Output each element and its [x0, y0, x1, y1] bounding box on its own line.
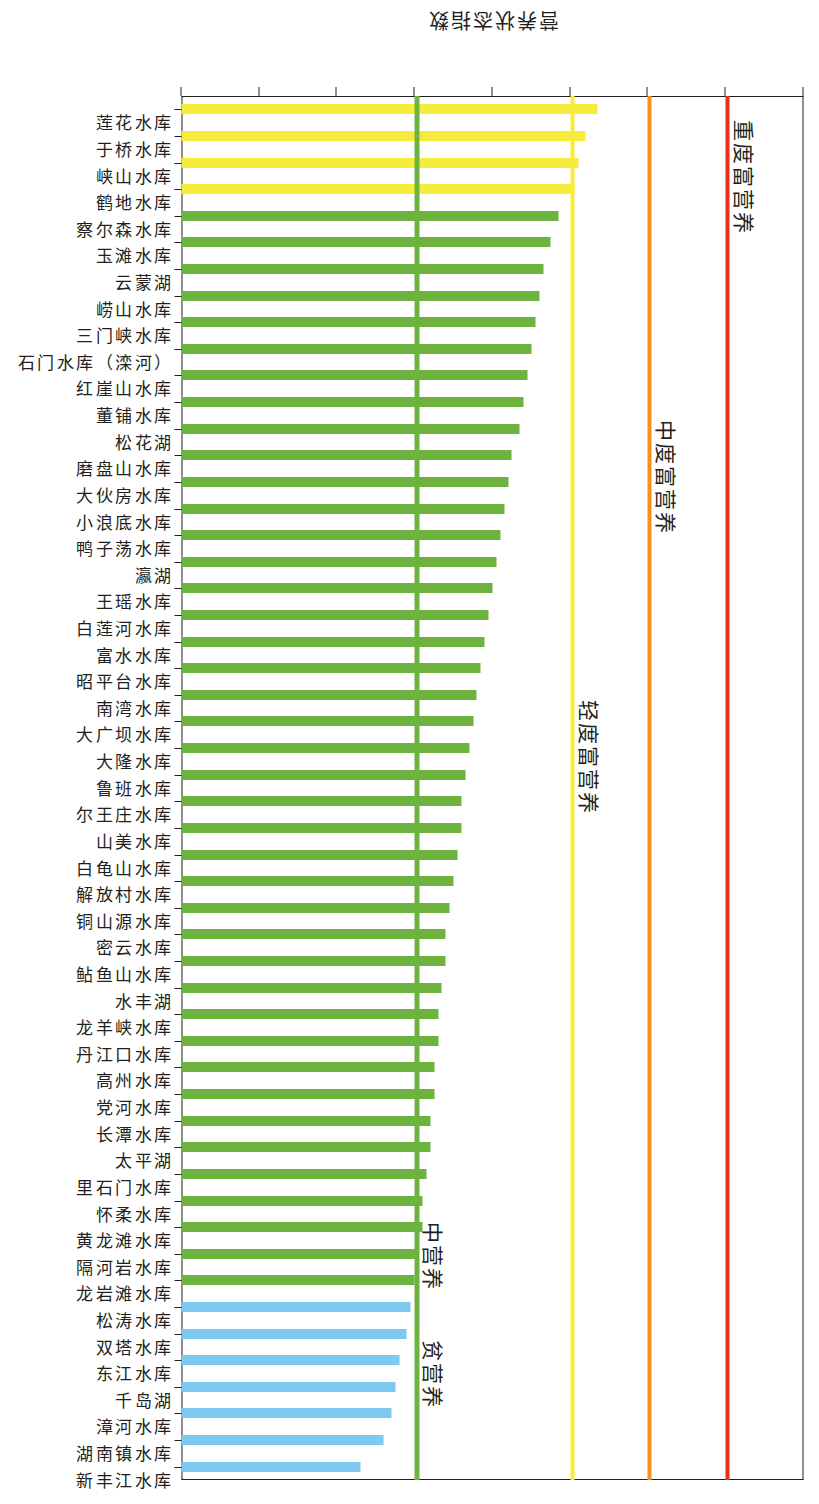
category-axis-tick: [174, 801, 181, 802]
category-axis-tick: [174, 482, 181, 483]
trophic-state-annotation: 重度富营养: [729, 120, 759, 235]
tick-mark: [647, 87, 648, 96]
category-label: 解放村水库: [13, 887, 173, 905]
category-axis-tick: [174, 588, 181, 589]
category-label: 红崖山水库: [13, 381, 173, 399]
category-axis-tick: [174, 1360, 181, 1361]
reference-line: [648, 96, 652, 1480]
category-axis-tick: [174, 1280, 181, 1281]
category-axis-tick: [174, 748, 181, 749]
category-axis-tick: [174, 136, 181, 137]
category-axis-tick: [174, 695, 181, 696]
category-label: 里石门水库: [13, 1180, 173, 1198]
tick-mark: [413, 87, 414, 96]
tick-mark: [802, 87, 803, 96]
category-axis-tick: [174, 455, 181, 456]
category-label: 鲁班水库: [13, 781, 173, 799]
category-label: 董铺水库: [13, 408, 173, 426]
category-label: 小浪底水库: [13, 515, 173, 533]
category-axis-tick: [174, 1147, 181, 1148]
category-label: 昭平台水库: [13, 674, 173, 692]
category-label: 鸭子荡水库: [13, 541, 173, 559]
category-label: 东江水库: [13, 1366, 173, 1384]
category-label: 怀柔水库: [13, 1207, 173, 1225]
category-axis-tick: [174, 1307, 181, 1308]
category-label: 鲇鱼山水库: [13, 967, 173, 985]
category-axis-tick: [174, 429, 181, 430]
category-axis-tick: [174, 1254, 181, 1255]
category-label: 云蒙湖: [13, 275, 173, 293]
category-label: 大广坝水库: [13, 727, 173, 745]
trophic-state-annotation: 轻度富营养: [574, 700, 604, 815]
category-label: 大伙房水库: [13, 488, 173, 506]
category-axis-tick: [174, 1094, 181, 1095]
category-label: 白龟山水库: [13, 861, 173, 879]
category-label: 密云水库: [13, 940, 173, 958]
category-label: 党河水库: [13, 1100, 173, 1118]
category-axis-tick: [174, 881, 181, 882]
tick-mark: [491, 87, 492, 96]
tick-mark: [724, 87, 725, 96]
category-label: 瀛湖: [13, 568, 173, 586]
category-axis-tick: [174, 1201, 181, 1202]
category-axis-tick: [174, 934, 181, 935]
category-axis-tick: [174, 775, 181, 776]
category-axis-tick: [174, 322, 181, 323]
category-label: 丹江口水库: [13, 1047, 173, 1065]
category-axis-tick: [174, 1121, 181, 1122]
category-axis-tick: [174, 509, 181, 510]
chart-figure: 01020304050607080 营养状态指数 莲花水库于桥水库峡山水库鹤地水…: [0, 0, 819, 1504]
category-label: 龙羊峡水库: [13, 1020, 173, 1038]
category-axis-tick: [174, 296, 181, 297]
category-axis-tick: [174, 961, 181, 962]
category-axis-tick: [174, 109, 181, 110]
category-axis-tick: [174, 1413, 181, 1414]
category-label: 尔王庄水库: [13, 807, 173, 825]
category-axis-tick: [174, 269, 181, 270]
category-label: 大隆水库: [13, 754, 173, 772]
category-label: 隔河岩水库: [13, 1260, 173, 1278]
tick-mark: [258, 87, 259, 96]
tick-mark: [336, 87, 337, 96]
category-axis-tick: [174, 1014, 181, 1015]
category-label: 湖南镇水库: [13, 1446, 173, 1464]
category-axis-tick: [174, 216, 181, 217]
category-axis-tick: [174, 642, 181, 643]
category-axis-tick: [174, 668, 181, 669]
trophic-state-annotation: 中营养: [418, 1222, 448, 1291]
category-axis-tick: [174, 189, 181, 190]
category-axis-tick: [174, 908, 181, 909]
category-label: 南湾水库: [13, 701, 173, 719]
category-label: 水丰湖: [13, 994, 173, 1012]
category-label: 石门水库（滦河）: [13, 355, 173, 373]
category-label: 新丰江水库: [13, 1473, 173, 1491]
tick-mark: [569, 87, 570, 96]
category-label: 磨盘山水库: [13, 461, 173, 479]
trophic-state-annotation: 中度富营养: [652, 420, 682, 535]
category-label: 太平湖: [13, 1153, 173, 1171]
category-axis-tick: [174, 1067, 181, 1068]
category-axis-tick: [174, 1174, 181, 1175]
category-axis-tick: [174, 1467, 181, 1468]
category-axis-tick: [174, 1227, 181, 1228]
category-axis-tick: [174, 721, 181, 722]
category-axis-tick: [174, 163, 181, 164]
category-axis-tick: [174, 1387, 181, 1388]
category-axis-tick: [174, 988, 181, 989]
value-axis-title: 营养状态指数: [181, 10, 803, 36]
category-label: 松花湖: [13, 435, 173, 453]
category-label: 铜山源水库: [13, 914, 173, 932]
category-label: 白莲河水库: [13, 621, 173, 639]
category-axis-tick: [174, 615, 181, 616]
category-axis-tick: [174, 828, 181, 829]
category-axis-tick: [174, 1334, 181, 1335]
category-label: 山美水库: [13, 834, 173, 852]
category-axis-tick: [174, 349, 181, 350]
category-label: 莲花水库: [13, 115, 173, 133]
category-axis-tick: [174, 375, 181, 376]
category-label: 黄龙滩水库: [13, 1233, 173, 1251]
category-label: 高州水库: [13, 1073, 173, 1091]
reference-lines: [181, 96, 803, 1480]
category-label: 崂山水库: [13, 302, 173, 320]
category-label: 双塔水库: [13, 1340, 173, 1358]
